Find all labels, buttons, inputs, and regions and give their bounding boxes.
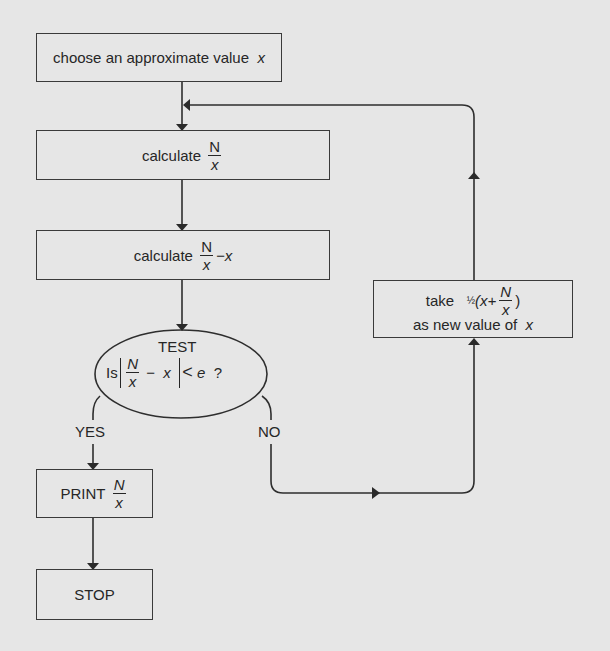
update-numerator: N <box>499 284 512 301</box>
update-fraction: N x <box>499 284 512 317</box>
arrowhead-no-right <box>372 487 380 499</box>
calc2-fraction: N x <box>200 239 213 272</box>
test-fraction: N x <box>126 356 139 389</box>
update-line2-text: as new value of <box>413 316 517 333</box>
calc2-box: calculate N x −x <box>36 230 330 280</box>
print-fraction: N x <box>113 477 126 510</box>
test-minus: − <box>146 364 155 381</box>
abs-bar-left <box>120 358 122 388</box>
stop-text: STOP <box>74 586 115 603</box>
test-epsilon: e <box>197 364 205 381</box>
print-box: PRINT N x <box>36 469 153 518</box>
update-close: ) <box>515 293 520 310</box>
calc1-text: calculate <box>142 147 201 164</box>
test-condition: Is N x − x < e ? <box>106 356 222 389</box>
yes-branch-top <box>93 396 100 420</box>
arrowhead-update-in <box>468 338 480 345</box>
update-denominator: x <box>502 301 510 317</box>
start-box: choose an approximate value x <box>36 33 282 82</box>
test-title: TEST <box>158 338 196 355</box>
update-line2: as new value of x <box>413 317 533 334</box>
test-denominator: x <box>129 373 137 389</box>
start-text: choose an approximate value <box>53 49 249 66</box>
calc1-numerator: N <box>208 139 221 156</box>
update-open: (x+ <box>475 293 496 310</box>
stop-box: STOP <box>36 569 153 620</box>
update-line1: take ½ (x+ N x ) <box>426 284 520 317</box>
calc2-numerator: N <box>200 239 213 256</box>
test-question: ? <box>214 364 222 381</box>
test-prefix: Is <box>106 364 118 381</box>
no-branch-loop <box>271 344 474 493</box>
arrowhead-loop-left <box>183 99 190 111</box>
no-label: NO <box>258 423 281 440</box>
arrowhead-loop-up <box>468 172 480 179</box>
update-take: take <box>426 293 454 310</box>
test-lt: < <box>182 362 193 383</box>
calc1-denominator: x <box>211 156 219 172</box>
print-text: PRINT <box>60 485 105 502</box>
abs-bar-right <box>179 358 181 388</box>
calc1-fraction: N x <box>208 139 221 172</box>
test-numerator: N <box>126 356 139 373</box>
print-denominator: x <box>115 494 123 510</box>
update-var: x <box>526 316 534 333</box>
calc2-suffix: −x <box>216 247 232 264</box>
calc1-box: calculate N x <box>36 130 330 180</box>
test-var: x <box>163 364 171 381</box>
calc2-denominator: x <box>203 256 211 272</box>
calc2-text: calculate <box>134 247 193 264</box>
no-branch-top <box>262 396 271 420</box>
start-var: x <box>257 49 265 66</box>
update-box: take ½ (x+ N x ) as new value of x <box>373 280 573 338</box>
print-numerator: N <box>113 477 126 494</box>
update-half: ½ <box>467 295 475 306</box>
yes-label: YES <box>75 423 105 440</box>
